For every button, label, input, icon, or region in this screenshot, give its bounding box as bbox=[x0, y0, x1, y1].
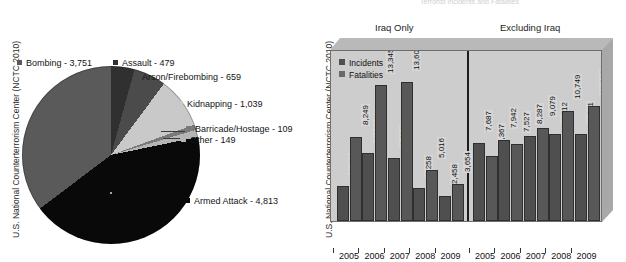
square-marker-icon bbox=[181, 137, 186, 142]
plot-top-face bbox=[330, 38, 613, 50]
bars-layer: 3,4698,2496,62813,3456,21213,6063,2585,0… bbox=[331, 51, 601, 221]
bar-value-label: 7,942 bbox=[509, 107, 518, 129]
square-marker-icon bbox=[186, 126, 191, 131]
pie-chart-panel: U.S. National Counterterrorism Center (N… bbox=[0, 0, 313, 244]
x-axis-tick bbox=[409, 248, 410, 253]
bar-incidents-2006-excl bbox=[498, 140, 510, 221]
bar-incidents-2005-iraq bbox=[337, 186, 349, 221]
pie-label-bombing: Bombing - 3,751 bbox=[17, 58, 92, 69]
bar-chart-title: Terrorist Incidents and Fatalities bbox=[313, 0, 626, 5]
pie-label-assault: Assault - 479 bbox=[113, 58, 175, 69]
pie-source-label: U.S. National Counterterrorism Center (N… bbox=[11, 41, 21, 238]
plot-right-face bbox=[602, 38, 613, 222]
x-axis-tick bbox=[494, 248, 495, 253]
square-marker-icon bbox=[17, 60, 22, 65]
x-axis-tick bbox=[333, 248, 334, 253]
pie-label-other: Other - 149 bbox=[181, 135, 236, 146]
bar-value-label: 10,749 bbox=[573, 74, 582, 100]
bar-fatalities-2006-iraq bbox=[375, 85, 387, 221]
bar-incidents-2009-excl bbox=[575, 134, 587, 221]
bar-fatalities-2005-excl bbox=[486, 156, 498, 221]
bar-fatalities-2009-excl bbox=[588, 106, 600, 222]
leader-line-other bbox=[163, 138, 180, 139]
pie-label-kidnapping: Kidnapping - 1,039 bbox=[178, 99, 263, 110]
bar-fatalities-2005-iraq bbox=[350, 137, 362, 221]
bar-fatalities-2008-iraq bbox=[426, 170, 438, 221]
x-axis-tick bbox=[435, 248, 436, 253]
bar-incidents-2008-excl bbox=[549, 134, 561, 221]
bar-value-label: 13,606 bbox=[412, 50, 421, 71]
bar-fatalities-2007-excl bbox=[537, 128, 549, 221]
group-title-iraq-only: Iraq Only bbox=[375, 22, 414, 33]
x-axis: 2005200620072008200920052006200720082009 bbox=[330, 248, 602, 262]
bar-fatalities-2006-excl bbox=[511, 144, 523, 221]
x-axis-tick bbox=[358, 248, 359, 253]
bar-value-label: 5,016 bbox=[437, 137, 446, 159]
bar-incidents-2006-iraq bbox=[362, 153, 374, 221]
bar-incidents-2008-iraq bbox=[413, 188, 425, 221]
bar-plot-box: Incidents Fatalities 3,4698,2496,62813,3… bbox=[330, 38, 613, 222]
bar-value-label: 9,079 bbox=[548, 95, 557, 117]
pie-slices bbox=[22, 66, 200, 244]
bar-incidents-2007-iraq bbox=[388, 158, 400, 221]
square-marker-icon bbox=[133, 74, 138, 79]
bar-value-label: 7,687 bbox=[484, 110, 493, 132]
x-axis-label-2009-excl: 2009 bbox=[573, 251, 601, 261]
x-axis-tick bbox=[469, 248, 470, 253]
bar-value-label: 2,458 bbox=[450, 163, 459, 185]
bar-value-label: 8,287 bbox=[535, 103, 544, 125]
bar-fatalities-2009-iraq bbox=[452, 184, 464, 221]
bar-chart-panel: Terrorist Incidents and Fatalities U.S. … bbox=[313, 0, 626, 244]
square-marker-icon bbox=[178, 101, 183, 106]
x-axis-label-2009-iraq: 2009 bbox=[437, 251, 465, 261]
bar-fatalities-2007-iraq bbox=[401, 82, 413, 221]
group-title-excluding-iraq: Excluding Iraq bbox=[500, 22, 560, 33]
bar-value-label: 11,317 bbox=[599, 69, 602, 95]
bar-value-label: 8,249 bbox=[361, 104, 370, 126]
plot-area: Incidents Fatalities 3,4698,2496,62813,3… bbox=[330, 50, 602, 222]
pie-label-arson: Arson/Firebombing - 659 bbox=[133, 72, 241, 83]
bar-value-label: 3,654 bbox=[463, 151, 472, 173]
bar-incidents-2007-excl bbox=[524, 136, 536, 221]
x-axis-tick bbox=[571, 248, 572, 253]
bar-incidents-2005-excl bbox=[473, 143, 485, 221]
square-marker-icon bbox=[185, 198, 190, 203]
bar-incidents-2009-iraq bbox=[439, 196, 451, 221]
pie-graphic bbox=[22, 66, 204, 244]
x-axis-tick bbox=[384, 248, 385, 253]
bar-fatalities-2008-excl bbox=[562, 111, 574, 221]
x-axis-tick bbox=[520, 248, 521, 253]
bar-value-label: 7,527 bbox=[522, 111, 531, 133]
leader-line-barricade bbox=[161, 131, 185, 132]
x-axis-tick bbox=[545, 248, 546, 253]
pie-label-barricade: Barricade/Hostage - 109 bbox=[186, 124, 293, 135]
bar-value-label: 13,345 bbox=[386, 50, 395, 74]
pie-center-dot bbox=[110, 192, 112, 194]
square-marker-icon bbox=[113, 60, 118, 65]
pie-label-armed-attack: Armed Attack - 4,813 bbox=[185, 196, 278, 207]
